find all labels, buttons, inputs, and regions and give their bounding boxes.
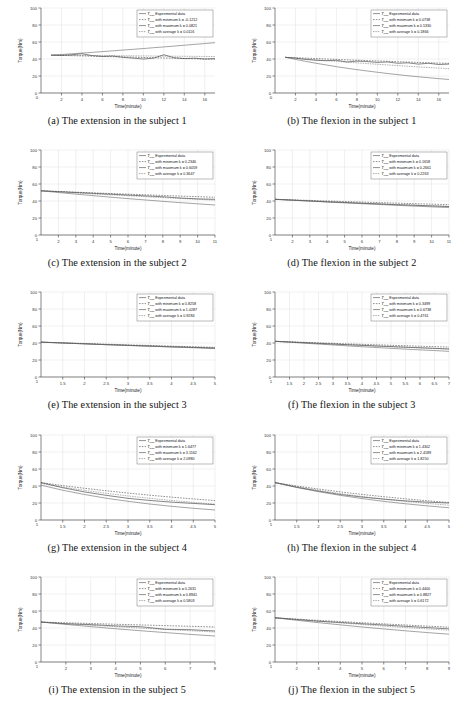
plot-area-b: 0204060801002468101214160Time(minute)Tor… (249, 3, 454, 115)
subplot-f: 0204060801001.522.533.544.555.566.571Tim… (235, 284, 469, 426)
svg-text:4.5: 4.5 (190, 381, 196, 386)
svg-text:5: 5 (390, 381, 393, 386)
svg-text:2.5: 2.5 (316, 381, 322, 386)
svg-text:1: 1 (35, 379, 38, 384)
chart-d: 0204060801002345678910111Time(minute)Tor… (249, 145, 454, 257)
svg-text:60: 60 (267, 609, 272, 614)
svg-text:4: 4 (339, 665, 342, 670)
svg-text:3: 3 (127, 381, 130, 386)
svg-text:80: 80 (267, 165, 272, 170)
svg-text:2.5: 2.5 (338, 523, 344, 528)
svg-text:100: 100 (30, 433, 38, 438)
svg-text:1.5: 1.5 (294, 523, 300, 528)
svg-text:4.5: 4.5 (425, 523, 431, 528)
svg-text:1: 1 (35, 522, 38, 527)
svg-text:8: 8 (161, 239, 164, 244)
chart-a: 0204060801002468101214160Time(minute)Tor… (15, 3, 220, 115)
chart-b: 0204060801002468101214160Time(minute)Tor… (249, 3, 454, 115)
svg-text:3.5: 3.5 (147, 523, 153, 528)
svg-text:Time(minute): Time(minute) (349, 388, 376, 393)
svg-text:6: 6 (383, 665, 386, 670)
chart-g: 0204060801001.522.533.544.551Time(minute… (15, 430, 220, 542)
svg-text:Torque(Nm): Torque(Nm) (252, 180, 257, 205)
svg-text:10: 10 (430, 239, 435, 244)
svg-text:Time(minute): Time(minute) (114, 672, 141, 677)
svg-text:7: 7 (448, 381, 451, 386)
svg-text:40: 40 (32, 484, 37, 489)
plot-area-a: 0204060801002468101214160Time(minute)Tor… (15, 3, 220, 115)
svg-text:60: 60 (32, 467, 37, 472)
chart-f: 0204060801001.522.533.544.555.566.571Tim… (249, 287, 454, 399)
plot-area-c: 0204060801002345678910111Time(minute)Tor… (15, 145, 220, 257)
subplot-caption-b: (b) The flexion in the subject 1 (287, 115, 416, 126)
svg-text:60: 60 (32, 609, 37, 614)
svg-text:5: 5 (214, 381, 217, 386)
svg-text:100: 100 (30, 290, 38, 295)
svg-text:4: 4 (405, 523, 408, 528)
svg-text:100: 100 (30, 6, 38, 11)
svg-text:10: 10 (195, 239, 200, 244)
subplot-j: 020406080100234567891Time(minute)Torque(… (235, 569, 469, 711)
svg-text:3: 3 (309, 239, 312, 244)
svg-text:80: 80 (267, 307, 272, 312)
svg-text:4: 4 (326, 239, 329, 244)
svg-text:4.5: 4.5 (374, 381, 380, 386)
svg-text:Time(minute): Time(minute) (349, 530, 376, 535)
svg-text:1: 1 (270, 664, 273, 669)
plot-area-f: 0204060801001.522.533.544.555.566.571Tim… (249, 287, 454, 399)
plot-area-i: 02040608010023456781Time(minute)Torque(N… (15, 572, 220, 684)
svg-text:16: 16 (437, 97, 442, 102)
svg-text:40: 40 (32, 57, 37, 62)
svg-text:1: 1 (270, 237, 273, 242)
svg-text:40: 40 (32, 199, 37, 204)
svg-text:100: 100 (264, 433, 272, 438)
svg-text:100: 100 (30, 575, 38, 580)
figure-grid: 0204060801002468101214160Time(minute)Tor… (0, 0, 469, 711)
subplot-b: 0204060801002468101214160Time(minute)Tor… (235, 0, 469, 142)
svg-text:9: 9 (179, 239, 182, 244)
svg-text:40: 40 (267, 341, 272, 346)
subplot-h: 0204060801001.522.533.544.551Time(minute… (235, 427, 469, 569)
subplot-i: 02040608010023456781Time(minute)Torque(N… (0, 569, 235, 711)
svg-text:60: 60 (267, 324, 272, 329)
svg-text:80: 80 (267, 450, 272, 455)
svg-text:4: 4 (81, 97, 84, 102)
plot-area-e: 0204060801001.522.533.544.551Time(minute… (15, 287, 220, 399)
svg-text:2: 2 (83, 381, 86, 386)
svg-text:2: 2 (318, 523, 321, 528)
svg-text:100: 100 (264, 575, 272, 580)
svg-text:20: 20 (32, 643, 37, 648)
svg-text:2.5: 2.5 (103, 381, 109, 386)
svg-text:2: 2 (83, 523, 86, 528)
svg-text:Torque(Nm): Torque(Nm) (17, 322, 22, 347)
svg-text:Time(minute): Time(minute) (114, 530, 141, 535)
svg-text:0: 0 (35, 95, 38, 100)
svg-text:14: 14 (182, 97, 187, 102)
svg-text:2: 2 (57, 239, 60, 244)
svg-text:40: 40 (32, 626, 37, 631)
subplot-caption-d: (d) The flexion in the subject 2 (287, 257, 416, 268)
svg-text:5: 5 (109, 239, 112, 244)
svg-text:8: 8 (356, 97, 359, 102)
subplot-caption-e: (e) The extension in the subject 3 (48, 399, 187, 410)
svg-text:Torque(Nm): Torque(Nm) (252, 322, 257, 347)
svg-text:3: 3 (318, 665, 321, 670)
svg-text:20: 20 (267, 358, 272, 363)
svg-text:7: 7 (144, 239, 147, 244)
svg-text:80: 80 (267, 592, 272, 597)
svg-text:40: 40 (267, 626, 272, 631)
svg-text:80: 80 (32, 165, 37, 170)
svg-text:3: 3 (127, 523, 130, 528)
svg-text:1.5: 1.5 (60, 381, 66, 386)
svg-text:11: 11 (447, 239, 452, 244)
svg-text:80: 80 (32, 450, 37, 455)
subplot-caption-c: (c) The extension in the subject 2 (48, 257, 187, 268)
svg-text:20: 20 (267, 74, 272, 79)
plot-area-h: 0204060801001.522.533.544.551Time(minute… (249, 430, 454, 542)
svg-text:1.5: 1.5 (60, 523, 66, 528)
subplot-c: 0204060801002345678910111Time(minute)Tor… (0, 142, 235, 284)
svg-text:8: 8 (121, 97, 124, 102)
svg-text:1: 1 (35, 664, 38, 669)
svg-text:10: 10 (141, 97, 146, 102)
subplot-caption-i: (i) The extension in the subject 5 (49, 684, 186, 695)
